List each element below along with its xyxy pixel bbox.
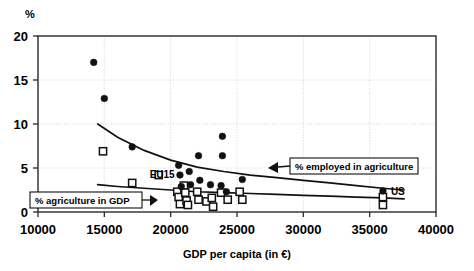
employed-in-agriculture-callout-arrowhead <box>268 162 278 173</box>
x-tick-label-30000: 30000 <box>285 222 321 237</box>
eu15-label: EU15 <box>150 169 175 180</box>
us-label: US <box>391 186 405 197</box>
y-axis-ticks: 05101520 <box>14 29 38 220</box>
agriculture-in-gdp-callout-text: % agriculture in GDP <box>35 195 130 206</box>
y-tick-label-10: 10 <box>14 117 28 132</box>
series-employed-in-agriculture <box>90 59 386 195</box>
agriculture-in-gdp-callout: % agriculture in GDP <box>30 192 158 208</box>
x-tick-label-40000: 40000 <box>418 222 454 237</box>
x-axis-title: GDP per capita (in €) <box>183 248 291 260</box>
scatter-chart: 10000150002000025000300003500040000 0510… <box>0 0 474 271</box>
y-tick-label-15: 15 <box>14 73 28 88</box>
data-point-open-square <box>379 201 386 208</box>
y-axis-unit-label: % <box>25 8 35 20</box>
data-point-filled-circle <box>129 144 136 151</box>
x-tick-label-15000: 15000 <box>86 222 122 237</box>
x-tick-label-25000: 25000 <box>219 222 255 237</box>
y-tick-label-5: 5 <box>21 161 28 176</box>
employed-in-agriculture-callout: % employed in agriculture <box>268 158 418 174</box>
data-point-open-square <box>194 188 201 195</box>
data-point-filled-circle <box>219 133 226 140</box>
data-point-filled-circle <box>187 181 194 188</box>
data-point-filled-circle <box>380 188 387 195</box>
employed-in-agriculture-callout-text: % employed in agriculture <box>295 161 413 172</box>
y-tick-label-0: 0 <box>21 205 28 220</box>
agriculture-in-gdp-callout-arrowhead <box>150 195 158 206</box>
data-point-filled-circle <box>218 182 225 189</box>
data-point-filled-circle <box>207 181 214 188</box>
x-tick-label-35000: 35000 <box>352 222 388 237</box>
data-point-open-square <box>379 193 386 200</box>
data-point-filled-circle <box>239 176 246 183</box>
x-axis-ticks: 10000150002000025000300003500040000 <box>20 212 454 237</box>
trendline-gdp <box>98 185 404 199</box>
x-tick-label-20000: 20000 <box>153 222 189 237</box>
data-point-filled-circle <box>195 152 202 159</box>
y-tick-label-20: 20 <box>14 29 28 44</box>
data-point-open-square <box>208 194 215 201</box>
x-tick-label-10000: 10000 <box>20 222 56 237</box>
data-point-filled-circle <box>175 162 182 169</box>
data-point-filled-circle <box>186 168 193 175</box>
trendline-employed <box>98 124 404 190</box>
data-point-filled-circle <box>90 59 97 66</box>
data-point-open-square <box>236 188 243 195</box>
data-point-open-square <box>224 196 231 203</box>
data-point-open-square <box>182 189 189 196</box>
data-point-filled-circle <box>223 188 230 195</box>
data-point-filled-circle <box>178 183 185 190</box>
data-point-filled-circle <box>197 177 204 184</box>
data-point-open-square <box>99 148 106 155</box>
data-point-open-square <box>195 196 202 203</box>
data-point-filled-circle <box>219 152 226 159</box>
data-point-filled-circle <box>101 95 108 102</box>
chart-canvas: 10000150002000025000300003500040000 0510… <box>0 0 474 271</box>
employed-in-agriculture-callout-leader <box>278 166 290 167</box>
data-point-open-square <box>129 179 136 186</box>
data-point-open-square <box>210 203 217 210</box>
data-point-open-square <box>239 196 246 203</box>
data-point-filled-circle <box>177 172 184 179</box>
data-point-open-square <box>184 201 191 208</box>
